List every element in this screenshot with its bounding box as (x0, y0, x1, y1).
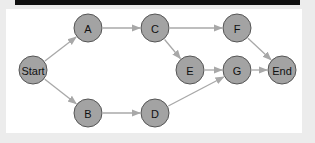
node-d: D (141, 99, 169, 127)
node-c: C (141, 14, 169, 42)
flow-diagram: StartABCDEFGEnd (0, 0, 315, 143)
node-label: A (84, 23, 92, 35)
edge-c-to-e (165, 40, 181, 59)
node-label: E (186, 65, 193, 77)
node-e: E (176, 56, 204, 84)
node-end: End (268, 56, 296, 84)
edge-start-to-a (45, 37, 76, 61)
edge-start-to-b (45, 79, 76, 104)
node-label: G (233, 65, 242, 77)
node-start: Start (19, 56, 47, 84)
node-label: C (151, 23, 159, 35)
node-label: Start (21, 65, 44, 77)
node-b: B (74, 99, 102, 127)
node-f: F (223, 14, 251, 42)
node-a: A (74, 14, 102, 42)
node-g: G (223, 56, 251, 84)
node-label: End (272, 65, 292, 77)
node-label: D (151, 108, 159, 120)
node-label: F (234, 23, 241, 35)
node-label: B (84, 108, 91, 120)
edge-f-to-end (248, 38, 271, 60)
